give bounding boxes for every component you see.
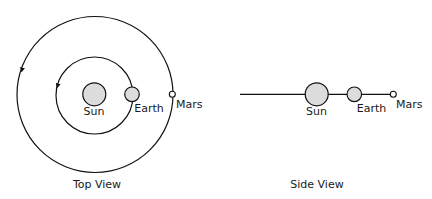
earth-label-side: Earth — [357, 102, 387, 115]
mars-label-top: Mars — [176, 98, 203, 111]
top-view-title: Top View — [72, 178, 121, 191]
side-view-title: Side View — [290, 178, 343, 191]
sun-label-side: Sun — [306, 105, 327, 118]
mars-side — [390, 91, 396, 97]
mars-top — [169, 91, 175, 97]
earth-top — [125, 87, 140, 102]
earth-side — [347, 87, 362, 102]
solar-system-diagram: Sun Earth Mars Top View Sun Earth Mars S… — [0, 0, 432, 199]
sun-top — [83, 83, 106, 106]
mars-label-side: Mars — [396, 98, 423, 111]
earth-label-top: Earth — [134, 102, 164, 115]
top-view: Sun Earth Mars Top View — [17, 17, 203, 192]
side-view: Sun Earth Mars Side View — [240, 83, 423, 191]
sun-label-top: Sun — [84, 105, 105, 118]
sun-side — [305, 83, 328, 106]
